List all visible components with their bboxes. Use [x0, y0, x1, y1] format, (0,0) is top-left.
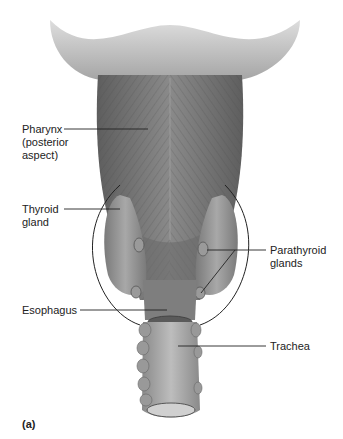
label-esophagus: Esophagus — [22, 304, 77, 317]
label-parathyroid-glands: Parathyroid glands — [270, 244, 326, 270]
label-trachea: Trachea — [270, 340, 310, 353]
parathyroid-lower-left — [131, 286, 141, 298]
parathyroid-upper-left — [134, 238, 144, 252]
label-thyroid-gland: Thyroid gland — [22, 203, 59, 229]
label-pharynx: Pharynx (posterior aspect) — [22, 123, 68, 162]
anatomy-figure: Pharynx (posterior aspect) Thyroid gland… — [0, 0, 343, 439]
esophagus — [143, 280, 197, 320]
panel-label: (a) — [22, 418, 35, 430]
parathyroid-upper-right — [198, 242, 208, 256]
